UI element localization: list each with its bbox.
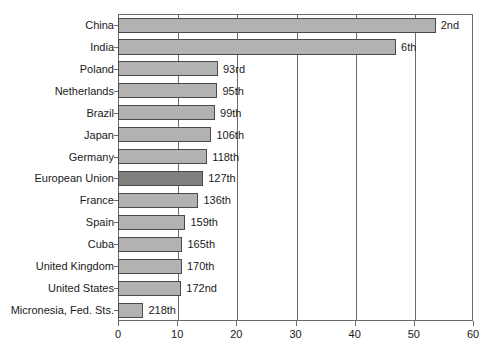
bar-value-label: 165th [187, 239, 215, 250]
bar [118, 127, 211, 142]
bar [118, 215, 185, 230]
bar-value-label: 136th [203, 195, 231, 206]
bar [118, 105, 215, 120]
category-label-row: Spain [0, 211, 114, 233]
bar-row: 159th [118, 211, 473, 233]
category-label-row: Japan [0, 124, 114, 146]
bar [118, 171, 203, 186]
x-axis-tick-label: 20 [230, 329, 242, 340]
bar-row: 2nd [118, 14, 473, 36]
category-label: Poland [80, 63, 114, 74]
x-axis-tick-label: 10 [171, 329, 183, 340]
bar-row: 95th [118, 80, 473, 102]
category-label-row: European Union [0, 168, 114, 190]
bar-row: 136th [118, 189, 473, 211]
bar-row: 172nd [118, 277, 473, 299]
category-label: Cuba [88, 239, 114, 250]
category-label-row: Netherlands [0, 80, 114, 102]
bar-row: 218th [118, 299, 473, 321]
x-axis-tick [177, 321, 178, 326]
bar-value-label: 218th [148, 305, 176, 316]
category-label: India [90, 41, 114, 52]
category-label-row: France [0, 189, 114, 211]
x-axis-tick-label: 40 [349, 329, 361, 340]
category-label-row: Brazil [0, 102, 114, 124]
bar-row: 93rd [118, 58, 473, 80]
x-axis-tick [473, 321, 474, 326]
bar-value-label: 106th [216, 129, 244, 140]
value-axis: 0102030405060 [118, 321, 473, 354]
bar [118, 259, 182, 274]
bar-value-label: 127th [208, 173, 236, 184]
bar [118, 281, 181, 296]
category-label: United States [48, 283, 114, 294]
x-axis-tick [236, 321, 237, 326]
bar [118, 83, 217, 98]
category-label-row: United Kingdom [0, 255, 114, 277]
bars-container: 2nd6th93rd95th99th106th118th127th136th15… [118, 14, 473, 321]
bar-value-label: 159th [190, 217, 218, 228]
bar-row: 6th [118, 36, 473, 58]
bar [118, 61, 218, 76]
bar-value-label: 95th [222, 85, 243, 96]
category-label: Brazil [86, 107, 114, 118]
bar [118, 149, 207, 164]
bar-value-label: 118th [212, 151, 239, 162]
category-label: European Union [34, 173, 114, 184]
bar-row: 99th [118, 102, 473, 124]
x-axis-tick [296, 321, 297, 326]
bar-row: 165th [118, 233, 473, 255]
bar [118, 39, 396, 54]
bar-value-label: 172nd [186, 283, 217, 294]
bar-value-label: 2nd [441, 19, 459, 30]
x-axis-tick [118, 321, 119, 326]
category-label-row: India [0, 36, 114, 58]
x-axis-tick-label: 50 [408, 329, 420, 340]
bar-row: 106th [118, 124, 473, 146]
category-label: Japan [84, 129, 114, 140]
bar-value-label: 93rd [223, 63, 245, 74]
x-axis-tick [355, 321, 356, 326]
category-label: Germany [69, 151, 114, 162]
category-axis: ChinaIndiaPolandNetherlandsBrazilJapanGe… [0, 14, 114, 321]
category-label-row: Cuba [0, 233, 114, 255]
category-label: France [80, 195, 114, 206]
bar-value-label: 99th [220, 107, 241, 118]
bar [118, 303, 143, 318]
bar-row: 127th [118, 168, 473, 190]
category-label: Netherlands [55, 85, 114, 96]
category-label: China [85, 19, 114, 30]
x-axis-tick-label: 0 [115, 329, 121, 340]
bar-value-label: 170th [187, 261, 215, 272]
category-label-row: China [0, 14, 114, 36]
bar [118, 193, 198, 208]
bar [118, 237, 182, 252]
category-label: Micronesia, Fed. Sts. [11, 305, 114, 316]
bar [118, 18, 436, 33]
category-label-row: United States [0, 277, 114, 299]
x-axis-tick-label: 30 [289, 329, 301, 340]
category-label-row: Poland [0, 58, 114, 80]
category-label-row: Micronesia, Fed. Sts. [0, 299, 114, 321]
x-axis-tick [414, 321, 415, 326]
bar-value-label: 6th [401, 41, 416, 52]
x-axis-tick-label: 60 [467, 329, 479, 340]
category-label-row: Germany [0, 146, 114, 168]
bar-row: 170th [118, 255, 473, 277]
category-label: Spain [86, 217, 114, 228]
bar-row: 118th [118, 146, 473, 168]
bar-chart: ChinaIndiaPolandNetherlandsBrazilJapanGe… [0, 0, 497, 354]
category-label: United Kingdom [36, 261, 114, 272]
